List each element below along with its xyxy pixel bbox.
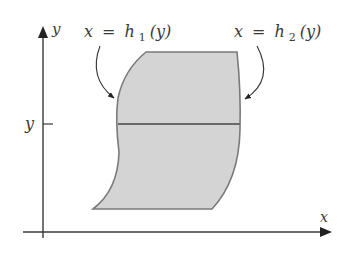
- y-axis-label: y: [51, 20, 61, 38]
- right-curve-label: x = h 2 (y): [234, 22, 321, 44]
- y-axis-arrow-icon: [38, 26, 48, 38]
- left-pointer-arrow: [96, 46, 114, 98]
- x-axis-arrow-icon: [320, 227, 332, 237]
- x-axis-label: x: [320, 209, 328, 225]
- diagram-svg: y x y x = h 1 (y) x = h 2 (y): [0, 0, 356, 267]
- left-curve-label: x = h 1 (y): [84, 22, 171, 44]
- region-shape: [93, 52, 240, 209]
- right-pointer-arrow: [245, 46, 264, 99]
- y-tick-label: y: [24, 114, 35, 133]
- diagram-canvas: y x y x = h 1 (y) x = h 2 (y): [0, 0, 356, 267]
